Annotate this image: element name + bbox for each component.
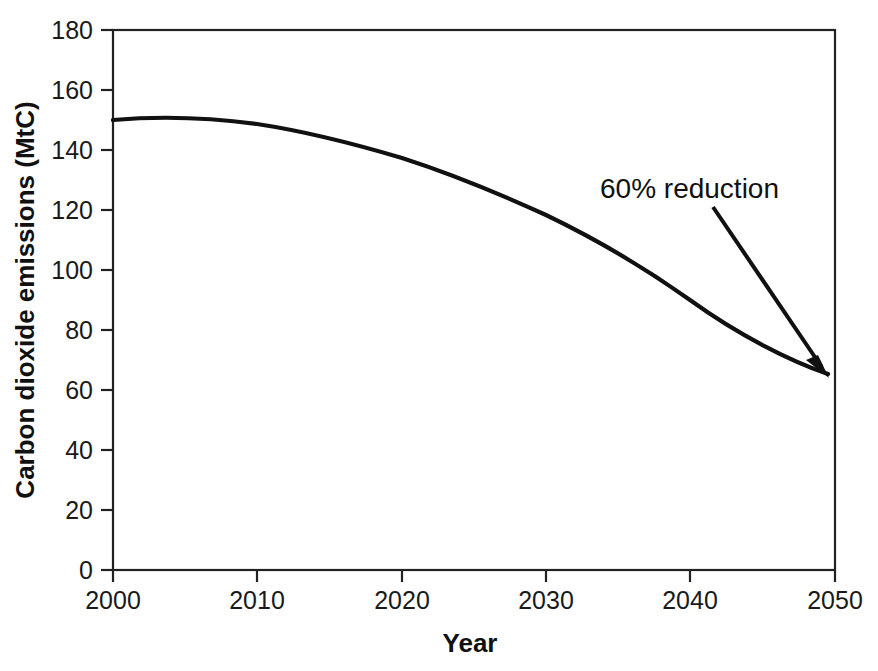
- y-tick-label-20: 20: [65, 496, 93, 524]
- y-tick-label-140: 140: [51, 136, 93, 164]
- emissions-curve: [113, 118, 828, 374]
- x-axis-ticks: [113, 570, 835, 582]
- annotation-arrow-line: [713, 207, 821, 366]
- x-tick-label-2010: 2010: [229, 586, 285, 614]
- y-axis-tick-labels: 0 20 40 60 80 100 120 140 160 180: [51, 16, 93, 584]
- y-tick-label-160: 160: [51, 76, 93, 104]
- x-tick-label-2000: 2000: [85, 586, 141, 614]
- x-axis-tick-labels: 2000 2010 2020 2030 2040 2050: [85, 586, 863, 614]
- x-tick-label-2040: 2040: [662, 586, 718, 614]
- co2-emissions-line-chart: 0 20 40 60 80 100 120 140 160 180 2000 2…: [0, 0, 878, 671]
- plot-frame: [113, 30, 835, 570]
- y-tick-label-120: 120: [51, 196, 93, 224]
- y-tick-label-40: 40: [65, 436, 93, 464]
- annotation-label: 60% reduction: [600, 173, 779, 204]
- x-axis-title: Year: [443, 628, 498, 658]
- chart-figure: 0 20 40 60 80 100 120 140 160 180 2000 2…: [0, 0, 878, 671]
- x-tick-label-2030: 2030: [518, 586, 574, 614]
- x-tick-label-2020: 2020: [374, 586, 430, 614]
- y-tick-label-80: 80: [65, 316, 93, 344]
- y-tick-label-0: 0: [79, 556, 93, 584]
- y-axis-ticks: [101, 30, 113, 570]
- x-tick-label-2050: 2050: [807, 586, 863, 614]
- y-tick-label-100: 100: [51, 256, 93, 284]
- annotation-60-percent-reduction: 60% reduction: [600, 173, 829, 378]
- y-tick-label-60: 60: [65, 376, 93, 404]
- y-axis-title: Carbon dioxide emissions (MtC): [10, 101, 40, 498]
- y-tick-label-180: 180: [51, 16, 93, 44]
